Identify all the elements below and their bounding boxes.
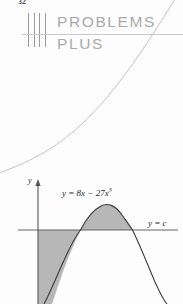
sweeping-arc-path — [0, 0, 178, 174]
sweeping-arc-graphic — [0, 0, 183, 185]
shaded-region-left — [38, 230, 81, 304]
y-axis-label: y — [28, 176, 32, 186]
curve-equation-exponent: 3 — [109, 187, 112, 193]
y-axis-arrowhead — [35, 179, 40, 186]
curve-equation-label: y = 8x − 27x3 — [62, 188, 112, 198]
curve-equation-text: y = 8x − 27x — [62, 188, 109, 198]
horizontal-line-label: y = c — [148, 218, 167, 228]
textbook-page: 32 PROBLEMS PLUS — [0, 0, 183, 304]
